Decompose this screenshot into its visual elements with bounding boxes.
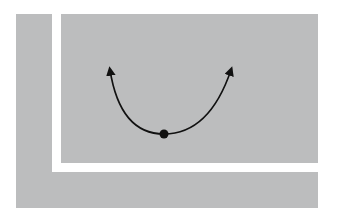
curve-diagram bbox=[0, 0, 337, 221]
ball-icon bbox=[160, 130, 169, 139]
convex-curve bbox=[110, 70, 231, 134]
